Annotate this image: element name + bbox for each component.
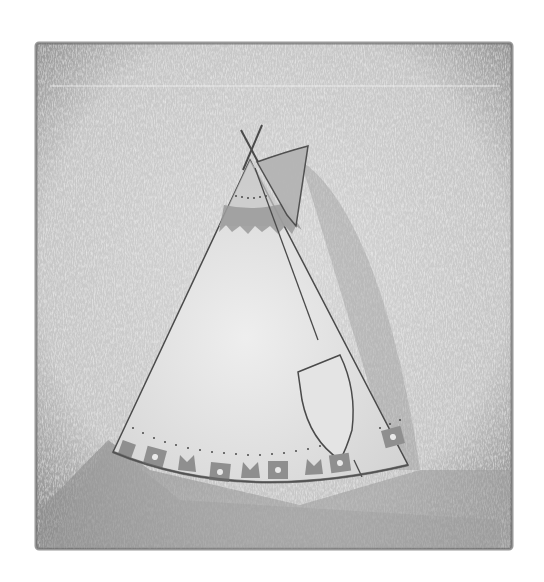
teepee-artwork	[0, 0, 544, 582]
